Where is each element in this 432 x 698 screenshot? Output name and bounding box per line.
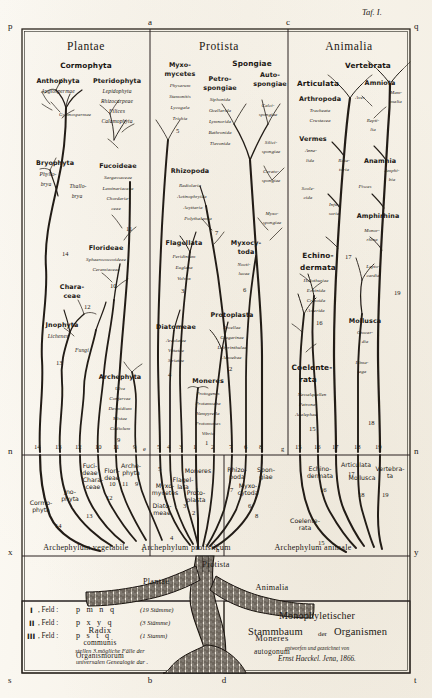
corner-letter-c: c	[286, 18, 290, 27]
sub-silici-1: Silici-	[265, 140, 277, 145]
number-12-upper: 12	[84, 304, 91, 311]
corner-letter-n-left: n	[8, 447, 13, 456]
lower-name-characeae: Chara- ceae	[83, 477, 104, 490]
lower-num-5: 5	[158, 466, 161, 473]
lower-num-12: 12	[106, 495, 113, 502]
sub-mammalia-2: malia	[390, 99, 402, 104]
sub-cerato-2: spongiae	[262, 178, 280, 183]
number-11-upper: 11	[126, 226, 132, 233]
title-line-2a: Stammbaum	[248, 627, 303, 638]
baseline-num-15: 15	[295, 444, 302, 451]
lower-name-myxomycetes: Myxo- mycetes	[152, 483, 178, 496]
sub-lycogala: Lycogala	[171, 105, 190, 110]
baseline-num-3: 3	[179, 444, 182, 451]
sub-desmidium: Desmidium	[108, 406, 131, 411]
sub-otocardia-2: dia	[362, 339, 369, 344]
baseline-num-8: 8	[259, 444, 262, 451]
legend-note-2: (3 Stämme)	[140, 620, 170, 627]
group-spongiae: Spongiae	[232, 60, 271, 67]
lower-name-moneres: Moneres	[185, 468, 211, 475]
group-myxomycetes-1: Myxo-	[169, 62, 191, 69]
archephylum-protisticum: Archephylum protisticum	[141, 544, 230, 552]
corner-letter-x: x	[8, 548, 13, 557]
group-vermes: Vermes	[299, 136, 326, 143]
lower-num-7: 7	[230, 487, 233, 494]
sub-bathronida: Bathronida	[208, 130, 231, 135]
group-anamnia: Anamnia	[364, 158, 396, 165]
sub-siphonida: Siphonida	[210, 97, 231, 102]
kingdom-header-plantae: Plantae	[67, 41, 105, 53]
baseline-num-18: 18	[354, 444, 361, 451]
sub-angiospermae: Angiospermae	[41, 89, 75, 95]
kingdom-header-animalia: Animalia	[325, 41, 373, 53]
sub-polythalamia: Polythalamia	[184, 216, 212, 221]
lower-num-8: 8	[255, 513, 258, 520]
sub-ceramiaceae: Ceramiaceae	[92, 267, 119, 272]
group-florideae: Florideae	[89, 245, 124, 252]
archephylum-animale: Archephylum animale	[274, 544, 351, 552]
sub-rhizocarpeae: Rhizocarpeae	[101, 99, 133, 105]
sub-reptilia-1: Repti-	[367, 118, 380, 123]
legend-letters-3: p s t q	[76, 632, 111, 640]
lower-num-9: 9	[135, 481, 138, 488]
sub-striatae: Striatae	[168, 358, 184, 363]
title-line-2c: Organismen	[334, 627, 387, 638]
title-line-3: entworfen und gezeichnet von	[285, 646, 349, 652]
sub-asterida: Asterida	[307, 308, 324, 313]
sub-physarum: Physarum	[170, 83, 191, 88]
sub-infusoria-1: Infu-	[329, 202, 339, 207]
group-rhizopoda: Rhizopoda	[171, 168, 210, 175]
sub-calci-2: spongiae	[259, 112, 277, 117]
lower-name-cormophyta: Cormo- phyta	[30, 500, 53, 513]
lower-num-4: 4	[170, 535, 173, 542]
corner-letter-t: t	[414, 676, 417, 685]
group-coelenterata-2: rata	[299, 376, 317, 383]
corner-letter-b: b	[148, 676, 153, 685]
lower-num-6: 6	[248, 503, 251, 510]
sub-gymno-1: Gymnospermae	[59, 112, 91, 117]
sub-monorrhina-1: Monor-	[364, 228, 379, 233]
lower-name-archephyta: Arche- phyta	[121, 463, 141, 476]
number-4-upper: 4	[168, 372, 171, 379]
sub-monorrhina-2: rhina	[367, 237, 378, 242]
sub-tlavonida: Tlavonida	[210, 141, 231, 146]
number-18-upper: 18	[368, 420, 375, 427]
sub-laminariaceae: Laminariaceae	[103, 186, 134, 191]
lower-name-vertebrata: Vertebra- ta	[376, 466, 405, 479]
corner-letter-p: p	[8, 22, 13, 31]
group-moneres: Moneres	[192, 378, 224, 385]
group-myxocytoda-1: Myxocy-	[231, 240, 261, 247]
baseline-num-9: 9	[133, 444, 136, 451]
legend-feld-1: , Feld :	[38, 607, 58, 614]
baseline-num-12: 12	[75, 444, 82, 451]
baseline-num-2: 2	[211, 444, 214, 451]
title-line-2b: der	[318, 631, 327, 638]
sub-arcellae: Arcellae	[223, 325, 240, 330]
legend-note-3: (1 Stamm)	[140, 633, 167, 640]
baseline-letter-g: g	[281, 446, 284, 453]
sub-otocardia-1: Otocar-	[357, 330, 373, 335]
baseline-num-7: 7	[229, 444, 232, 451]
lower-num-10: 10	[109, 481, 116, 488]
number-13-upper: 13	[56, 360, 63, 367]
lower-name-mollusca: Mollusca	[349, 475, 376, 482]
sub-lymnorida: Lymnorida	[209, 119, 231, 124]
legend-roman-3: III	[27, 633, 35, 641]
lower-name-jnophyta: Jno- phyta	[61, 489, 79, 502]
sub-ulva: Ulva	[115, 386, 125, 391]
legend-feld-3: , Feld :	[38, 633, 58, 640]
sub-amphibia-2: bia	[389, 177, 396, 182]
sub-protamoeba: Protamoeba	[195, 401, 220, 406]
group-amphirhina: Amphirhina	[357, 213, 400, 220]
corner-letter-a: a	[148, 18, 152, 27]
baseline-letter-e: e	[143, 446, 146, 453]
sub-vittatae: Vittatae	[168, 348, 184, 353]
sub-amoebae: Amoebae	[223, 355, 242, 360]
sub-myxo-2: spongiae	[263, 220, 281, 225]
lower-num-2: 2	[192, 510, 195, 517]
sub-pisces: Pisces	[358, 184, 371, 189]
corner-letter-n-right: n	[414, 447, 419, 456]
sub-leptocardia-2: cardia	[366, 273, 379, 278]
sub-noctilucae-2: lucae	[238, 271, 249, 276]
legend-feld-2: , Feld :	[38, 620, 58, 627]
